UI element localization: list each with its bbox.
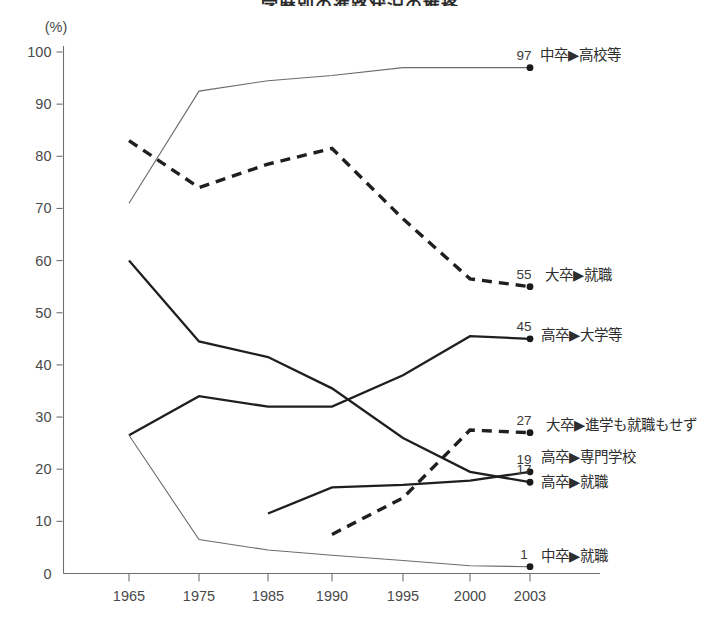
series-label-kousotsu-daigaku: 高卒▶大学等: [541, 328, 622, 343]
y-axis-ticks: 1009080706050403020100: [27, 44, 62, 582]
svg-text:90: 90: [35, 96, 51, 112]
svg-text:17: 17: [516, 462, 531, 477]
svg-text:0: 0: [43, 566, 51, 582]
series-endpoints: [527, 64, 534, 570]
svg-text:97: 97: [516, 48, 531, 63]
svg-text:30: 30: [35, 409, 51, 425]
svg-text:1: 1: [520, 547, 528, 562]
series-lines: [129, 68, 530, 567]
svg-text:50: 50: [35, 305, 51, 321]
svg-text:60: 60: [35, 253, 51, 269]
svg-text:55: 55: [516, 267, 531, 282]
svg-text:1995: 1995: [387, 588, 419, 604]
svg-text:70: 70: [35, 200, 51, 216]
series-label-chusotsu-koukou: 中卒▶高校等: [540, 48, 621, 63]
svg-text:27: 27: [516, 413, 531, 428]
svg-text:2003: 2003: [514, 588, 546, 604]
y-axis-unit: (%): [45, 19, 68, 35]
x-axis-ticks: 1965197519851990199520002003: [113, 574, 546, 604]
series-label-chusotsu-shushoku: 中卒▶就職: [541, 549, 608, 564]
svg-text:1985: 1985: [252, 588, 284, 604]
svg-text:1990: 1990: [316, 588, 348, 604]
chart-plot-area: 1009080706050403020100 19651975198519901…: [0, 0, 719, 627]
svg-text:10: 10: [35, 513, 51, 529]
svg-text:100: 100: [27, 44, 51, 60]
series-label-kousotsu-senmon: 高卒▶専門学校: [541, 450, 636, 465]
svg-text:80: 80: [35, 148, 51, 164]
svg-text:2000: 2000: [454, 588, 486, 604]
series-label-kousotsu-shushoku: 高卒▶就職: [541, 475, 608, 490]
svg-text:20: 20: [35, 461, 51, 477]
chart-root: 学歴別の進路状況の推移 1009080706050403020100 19651…: [0, 0, 719, 627]
svg-text:45: 45: [516, 319, 531, 334]
series-label-daisotsu-mushoku: 大卒▶進学も就職もせず: [546, 418, 697, 433]
svg-text:1965: 1965: [113, 588, 145, 604]
svg-text:1975: 1975: [183, 588, 215, 604]
series-label-daisotsu-shushoku: 大卒▶就職: [545, 268, 612, 283]
svg-text:40: 40: [35, 357, 51, 373]
